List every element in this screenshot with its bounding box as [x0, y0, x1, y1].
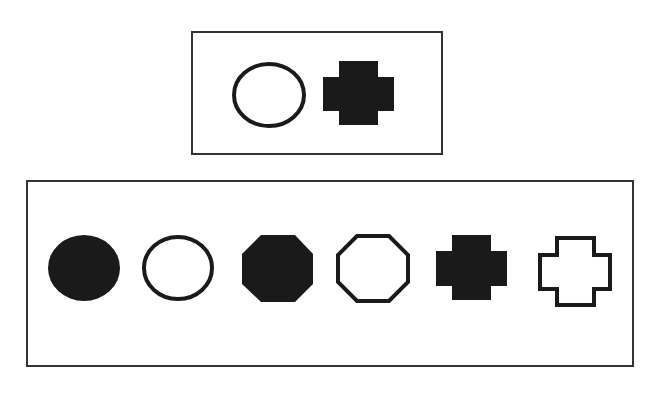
option-filled-octagon-icon: [242, 235, 314, 303]
sample-pair-panel: [191, 31, 443, 155]
option-filled-circle-icon: [47, 234, 121, 302]
sample-filled-cross-icon: [323, 61, 395, 126]
option-outline-cross-icon: [538, 236, 612, 307]
sample-outline-circle-icon: [231, 61, 307, 129]
clipped-caption-text: [30, 0, 630, 5]
option-filled-cross-icon: [436, 235, 508, 301]
option-outline-circle-icon: [141, 234, 215, 302]
option-outline-octagon-icon: [336, 234, 410, 303]
